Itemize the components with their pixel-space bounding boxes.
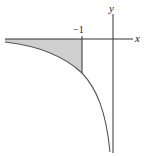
x-axis-label: x xyxy=(134,32,140,44)
graph: x y −1 xyxy=(0,0,146,156)
curve xyxy=(5,42,110,152)
y-axis-label: y xyxy=(108,2,114,14)
tick-label-neg1: −1 xyxy=(73,24,84,35)
